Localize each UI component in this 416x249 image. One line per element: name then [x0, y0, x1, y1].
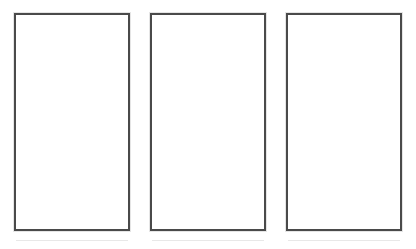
panel-3[interactable] [286, 13, 402, 231]
scan-artifact-line [288, 240, 400, 241]
page-canvas [0, 0, 416, 249]
panel-2-interior[interactable] [152, 15, 264, 229]
panel-2[interactable] [150, 13, 266, 231]
scan-artifact-line [152, 240, 264, 241]
panel-1[interactable] [14, 13, 130, 231]
panel-1-interior[interactable] [16, 15, 128, 229]
scan-artifact-line [16, 240, 128, 241]
panel-3-interior[interactable] [288, 15, 400, 229]
